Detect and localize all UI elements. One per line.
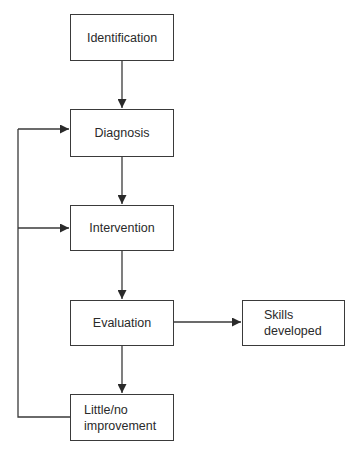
node-label: Little/no improvement xyxy=(84,402,156,434)
node-intervention: Intervention xyxy=(70,205,174,251)
node-diagnosis: Diagnosis xyxy=(70,109,174,157)
node-identification: Identification xyxy=(70,14,174,61)
node-label: Evaluation xyxy=(93,315,151,331)
node-evaluation: Evaluation xyxy=(70,300,174,346)
node-skills-developed: Skills developed xyxy=(242,300,345,346)
node-label: Intervention xyxy=(89,220,154,236)
feedback-line xyxy=(18,129,70,417)
node-little-no-improvement: Little/no improvement xyxy=(70,394,174,441)
node-label: Diagnosis xyxy=(95,125,150,141)
flowchart-connectors xyxy=(0,0,359,452)
node-label: Identification xyxy=(87,30,157,46)
node-label: Skills developed xyxy=(264,307,322,339)
flowchart: Identification Diagnosis Intervention Ev… xyxy=(0,0,359,452)
